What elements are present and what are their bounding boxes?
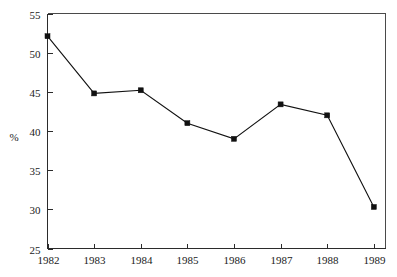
- y-axis-tick-labels: 55504540353025: [30, 9, 42, 256]
- y-tick-label: 55: [30, 9, 42, 21]
- x-tick-label: 1983: [84, 254, 107, 266]
- chart-canvas: 55504540353025 % 19821983198419851986198…: [0, 0, 397, 277]
- x-tick-label: 1986: [224, 254, 247, 266]
- series-group: 1982: 52.11983: 44.81984: 45.21985: 41.0…: [45, 34, 376, 210]
- y-tick-label: 40: [30, 126, 42, 138]
- data-point-marker: 1989: 30.3: [371, 204, 376, 209]
- y-tick-label: 45: [30, 87, 42, 99]
- x-axis-ticks: [49, 244, 375, 249]
- line-chart: 55504540353025 % 19821983198419851986198…: [0, 0, 397, 277]
- x-tick-label: 1988: [317, 254, 340, 266]
- series-markers: 1982: 52.11983: 44.81984: 45.21985: 41.0…: [45, 34, 376, 210]
- y-axis: 55504540353025 %: [9, 9, 52, 256]
- data-point-marker: 1986: 39.0: [231, 136, 236, 141]
- y-tick-label: 50: [30, 48, 42, 60]
- data-point-marker: 1988: 42.0: [325, 113, 330, 118]
- x-tick-label: 1984: [131, 254, 154, 266]
- x-tick-label: 1987: [271, 254, 294, 266]
- x-tick-label: 1982: [38, 254, 60, 266]
- data-point-marker: 1987: 43.4: [278, 102, 283, 107]
- x-tick-label: 1989: [364, 254, 387, 266]
- series-line: [48, 36, 374, 207]
- y-tick-label: 30: [30, 204, 42, 216]
- data-point-marker: 1985: 41.0: [185, 121, 190, 126]
- x-axis-tick-labels: 19821983198419851986198719881989: [38, 254, 387, 266]
- y-axis-title: %: [9, 131, 18, 143]
- x-tick-label: 1985: [177, 254, 200, 266]
- data-point-marker: 1982: 52.1: [45, 34, 50, 39]
- y-axis-ticks: [48, 15, 53, 250]
- data-point-marker: 1983: 44.8: [92, 91, 97, 96]
- data-point-marker: 1984: 45.2: [138, 88, 143, 93]
- x-axis: 19821983198419851986198719881989: [38, 244, 387, 266]
- y-tick-label: 35: [30, 165, 42, 177]
